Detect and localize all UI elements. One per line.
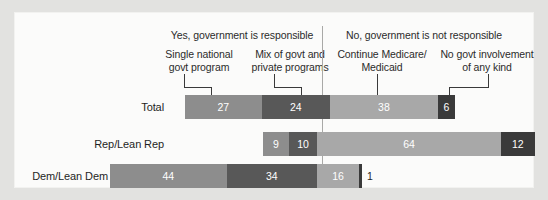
leader-line-category-4 xyxy=(449,74,489,96)
bar-segment-total-single-national-govt-program: 27 xyxy=(185,95,262,119)
bar-value-label: 64 xyxy=(403,138,415,150)
bar-value-label: 38 xyxy=(378,101,390,113)
row-label-rep-lean-rep: Rep/Lean Rep xyxy=(14,132,164,156)
stacked-bar-rep-lean-rep: 9 10 64 12 xyxy=(263,132,535,156)
leader-line-category-2 xyxy=(274,74,304,96)
chart-row-total: Total 27 24 38 6 xyxy=(14,95,534,119)
chart-row-dem-lean-dem: Dem/Lean Dem 44 34 16 1 xyxy=(14,164,534,188)
bar-value-label: 10 xyxy=(297,138,309,150)
bar-value-label: 24 xyxy=(290,101,302,113)
bar-value-label: 12 xyxy=(512,138,524,150)
bar-value-label: 1 xyxy=(367,170,373,182)
chart-panel: Yes, government is responsible No, gover… xyxy=(14,12,534,188)
chart-row-rep-lean-rep: Rep/Lean Rep 9 10 64 12 xyxy=(14,132,534,156)
bar-segment-dem-continue-medicare-medicaid: 16 xyxy=(317,164,359,188)
bar-value-label: 9 xyxy=(273,138,279,150)
bar-segment-dem-single-national-govt-program: 44 xyxy=(110,164,227,188)
category-label-line-2: of any kind xyxy=(434,61,540,74)
bar-value-label: 6 xyxy=(444,101,450,113)
bar-segment-rep-single-national-govt-program: 9 xyxy=(263,132,289,156)
category-label-line-1: Single national xyxy=(156,48,242,61)
category-label-no-govt-involvement-of-any-kind: No govt involvement of any kind xyxy=(434,48,540,73)
category-label-continue-medicare-medicaid: Continue Medicare/ Medicaid xyxy=(336,48,428,73)
category-label-line-1: Mix of govt and xyxy=(246,48,334,61)
bar-segment-rep-no-govt-involvement-of-any-kind: 12 xyxy=(501,132,535,156)
category-label-mix-of-govt-and-private-programs: Mix of govt and private programs xyxy=(246,48,334,73)
bar-value-label: 44 xyxy=(163,170,175,182)
bar-value-label: 34 xyxy=(266,170,278,182)
category-label-single-national-govt-program: Single national govt program xyxy=(156,48,242,73)
row-label-dem-lean-dem: Dem/Lean Dem xyxy=(0,164,108,188)
group-header-yes: Yes, government is responsible xyxy=(162,29,322,41)
bar-value-label: 16 xyxy=(332,170,344,182)
bar-segment-dem-no-govt-involvement-of-any-kind: 1 xyxy=(359,164,362,188)
category-label-line-2: Medicaid xyxy=(336,61,428,74)
bar-segment-total-no-govt-involvement-of-any-kind: 6 xyxy=(438,95,455,119)
stacked-bar-dem-lean-dem: 44 34 16 1 xyxy=(110,164,362,188)
chart-frame: Yes, government is responsible No, gover… xyxy=(0,0,548,200)
stacked-bar-total: 27 24 38 6 xyxy=(185,95,455,119)
category-label-line-2: govt program xyxy=(156,61,242,74)
category-label-line-2: private programs xyxy=(246,61,334,74)
bar-segment-dem-mix-of-govt-and-private-programs: 34 xyxy=(227,164,317,188)
group-header-no: No, government is not responsible xyxy=(326,29,522,41)
row-label-total: Total xyxy=(14,95,164,119)
leader-line-category-1 xyxy=(184,74,214,96)
bar-value-label: 27 xyxy=(218,101,230,113)
bar-segment-total-mix-of-govt-and-private-programs: 24 xyxy=(262,95,330,119)
category-label-line-1: No govt involvement xyxy=(434,48,540,61)
leader-line-category-3 xyxy=(377,74,381,96)
bar-segment-total-continue-medicare-medicaid: 38 xyxy=(330,95,438,119)
bar-segment-rep-mix-of-govt-and-private-programs: 10 xyxy=(289,132,318,156)
bar-segment-rep-continue-medicare-medicaid: 64 xyxy=(317,132,500,156)
category-label-line-1: Continue Medicare/ xyxy=(336,48,428,61)
